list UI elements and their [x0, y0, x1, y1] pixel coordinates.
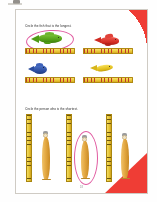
- exercise-1-item-red-fish[interactable]: [82, 31, 134, 57]
- tape-measure-yellow-fish: [83, 77, 133, 83]
- answer-circle-person-2: [74, 131, 98, 185]
- page-number: 18: [16, 185, 147, 189]
- exercise-1-instruction: Circle the fish that is the longest.: [25, 24, 72, 28]
- vertical-ruler-person-3: [106, 114, 112, 182]
- exercise-1-item-green-fish[interactable]: [24, 31, 76, 57]
- person-3-icon: [118, 133, 132, 182]
- yellow-fish-icon: [90, 63, 116, 74]
- blue-fish-icon: [28, 63, 50, 75]
- scan-background: Circle the fish that is the longest.: [0, 0, 157, 202]
- vertical-ruler-person-1: [26, 114, 32, 182]
- tape-measure-green-fish: [25, 48, 75, 54]
- scanner-artifact-secondary-icon: [8, 3, 22, 5]
- exercise-2-instruction: Circle the person who is the shortest.: [25, 107, 78, 111]
- worksheet-page: Circle the fish that is the longest.: [15, 9, 148, 194]
- exercise-1-item-yellow-fish[interactable]: [82, 60, 134, 86]
- exercise-2-item-person-2[interactable]: [64, 114, 106, 184]
- exercise-2-item-person-3[interactable]: [104, 114, 146, 184]
- tape-measure-red-fish: [83, 48, 133, 54]
- tape-measure-blue-fish: [25, 77, 75, 83]
- person-1-icon: [39, 131, 53, 183]
- red-fish-icon: [94, 34, 122, 46]
- exercise-2-item-person-1[interactable]: [24, 114, 66, 184]
- vertical-ruler-person-2: [66, 114, 72, 182]
- exercise-1-item-blue-fish[interactable]: [24, 60, 76, 86]
